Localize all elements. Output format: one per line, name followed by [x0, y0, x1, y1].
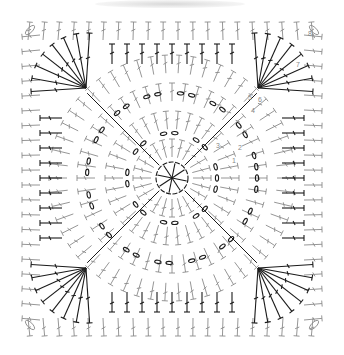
dark-stitches: [31, 33, 313, 323]
round-label-2: 2: [238, 144, 242, 151]
round-labels: 1 2 3 4 5 6 7 8: [216, 30, 312, 164]
round-label-1: 1: [232, 157, 236, 164]
round-label-7: 7: [296, 61, 300, 68]
round-label-6: 6: [258, 96, 262, 103]
round-label-8: 8: [308, 30, 312, 37]
round-label-5: 5: [248, 94, 252, 101]
round-label-4: 4: [251, 107, 255, 114]
round-label-3: 3: [216, 142, 220, 149]
crochet-chart: 1 2 3 4 5 6 7 8: [0, 0, 344, 355]
